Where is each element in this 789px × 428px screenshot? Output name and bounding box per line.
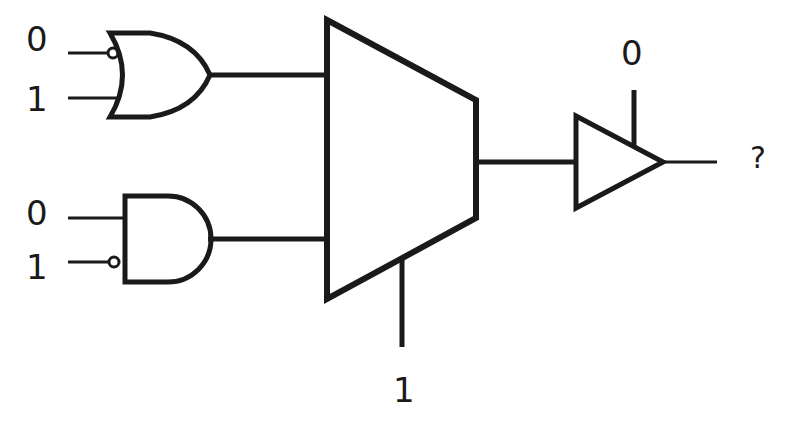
and-gate	[68, 196, 327, 282]
buffer-shape	[576, 116, 663, 208]
and-input-a-label: 0	[26, 196, 48, 230]
inversion-bubble-icon	[109, 257, 119, 267]
or-gate-shape	[110, 33, 210, 117]
tristate-buffer	[576, 90, 717, 208]
buffer-enable-label: 0	[621, 36, 643, 70]
or-input-b-label: 1	[26, 82, 48, 116]
mux-select-label: 1	[393, 373, 415, 407]
and-input-b-label: 1	[26, 250, 48, 284]
mux-shape	[327, 20, 476, 299]
or-input-a-label: 0	[26, 22, 48, 56]
or-gate	[68, 33, 327, 117]
and-gate-shape	[125, 196, 211, 282]
output-label: ?	[750, 143, 766, 173]
logic-circuit	[0, 0, 789, 428]
multiplexer	[327, 20, 576, 347]
